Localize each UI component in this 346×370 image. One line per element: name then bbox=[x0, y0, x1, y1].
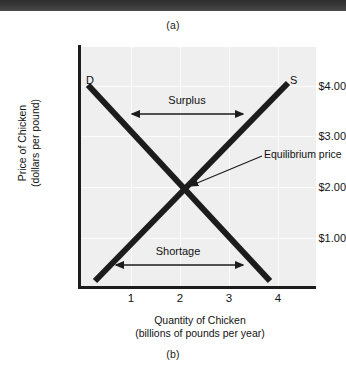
top-decorative-bar bbox=[0, 0, 346, 11]
demand-curve-label: D bbox=[86, 74, 94, 86]
y-tick-label-4: $4.00 bbox=[272, 80, 346, 92]
shortage-label: Shortage bbox=[128, 245, 228, 257]
y-tick-label-1: $1.00 bbox=[272, 232, 346, 244]
x-axis-title: Quantity of Chicken (billions of pounds … bbox=[60, 314, 340, 340]
panel-label-b: (b) bbox=[0, 348, 346, 360]
x-tick-label-4: 4 bbox=[266, 292, 290, 304]
supply-demand-figure: (a) $4.00 $3.00 $2.00 $1.00 1 2 3 4 Pric… bbox=[0, 0, 346, 370]
x-tick-label-3: 3 bbox=[217, 292, 241, 304]
x-axis-line bbox=[78, 286, 316, 289]
y-axis-title: Price of Chicken (dollars per pound) bbox=[16, 68, 42, 218]
panel-label-a: (a) bbox=[0, 19, 346, 31]
x-axis-title-units: (billions of pounds per year) bbox=[135, 327, 265, 339]
x-axis-title-main: Quantity of Chicken bbox=[154, 314, 246, 326]
y-axis-title-units: (dollars per pound) bbox=[29, 99, 41, 187]
gridline-vertical-3 bbox=[229, 47, 230, 287]
y-axis-line bbox=[78, 45, 81, 289]
x-tick-label-2: 2 bbox=[168, 292, 192, 304]
y-tick-label-3: $3.00 bbox=[272, 130, 346, 142]
surplus-label: Surplus bbox=[137, 94, 237, 106]
supply-curve-label: S bbox=[290, 74, 297, 86]
equilibrium-price-label: Equilibrium price bbox=[264, 148, 346, 161]
x-tick-label-1: 1 bbox=[119, 292, 143, 304]
y-tick-label-2: $2.00 bbox=[272, 181, 346, 193]
y-axis-title-main: Price of Chicken bbox=[16, 105, 28, 181]
